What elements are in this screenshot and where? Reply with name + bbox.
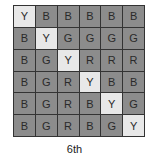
grid-cell: G — [123, 28, 144, 49]
grid-cell: B — [101, 6, 122, 27]
grid-cell: B — [14, 50, 35, 71]
grid-cell: B — [123, 6, 144, 27]
grid-cell: B — [14, 93, 35, 114]
letter-grid: YBBBBBBYGGGGBGYRRRBGRYBBBGRBYGBGRBGY — [13, 5, 145, 137]
grid-cell: B — [14, 72, 35, 93]
grid-cell: G — [58, 28, 79, 49]
grid-cell: G — [101, 115, 122, 136]
grid-cell: G — [36, 115, 57, 136]
grid-cell: G — [36, 50, 57, 71]
grid-cell: B — [80, 115, 101, 136]
grid-cell: Y — [36, 28, 57, 49]
grid-cell: B — [123, 72, 144, 93]
grid-cell: Y — [80, 72, 101, 93]
grid-cell: B — [80, 6, 101, 27]
grid-cell: B — [58, 6, 79, 27]
grid-cell: R — [80, 50, 101, 71]
grid-cell: G — [36, 93, 57, 114]
grid-cell: Y — [101, 93, 122, 114]
grid-cell: R — [58, 72, 79, 93]
grid-cell: R — [58, 115, 79, 136]
grid-cell: G — [101, 28, 122, 49]
grid-cell: Y — [14, 6, 35, 27]
grid-cell: Y — [123, 115, 144, 136]
grid-cell: B — [14, 28, 35, 49]
grid-cell: B — [36, 6, 57, 27]
grid-cell: B — [14, 115, 35, 136]
grid-cell: G — [80, 28, 101, 49]
grid-cell: R — [123, 50, 144, 71]
grid-cell: Y — [58, 50, 79, 71]
grid-cell: G — [123, 93, 144, 114]
grid-caption: 6th — [0, 143, 149, 155]
grid-cell: G — [36, 72, 57, 93]
grid-cell: R — [101, 50, 122, 71]
grid-cell: B — [101, 72, 122, 93]
grid-cell: R — [58, 93, 79, 114]
grid-cell: B — [80, 93, 101, 114]
